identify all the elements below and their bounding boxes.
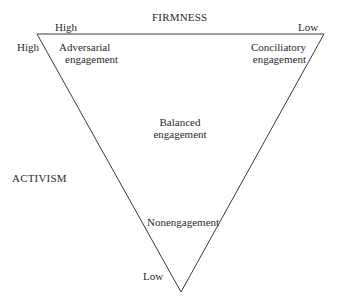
firmness-axis-title: FIRMNESS <box>152 11 207 23</box>
firmness-high-label: High <box>55 21 77 33</box>
activism-high-label: High <box>17 41 39 53</box>
activism-axis-title: ACTIVISM <box>12 172 67 184</box>
firmness-low-label: Low <box>298 21 318 33</box>
nonengagement-label: Nonengagement <box>147 216 219 228</box>
activism-low-label: Low <box>143 270 163 282</box>
balanced-engagement-label: Balanced engagement <box>140 116 220 140</box>
conciliatory-engagement-label: Conciliatory engagement <box>240 41 306 65</box>
adversarial-engagement-label: Adversarial engagement <box>59 41 139 65</box>
